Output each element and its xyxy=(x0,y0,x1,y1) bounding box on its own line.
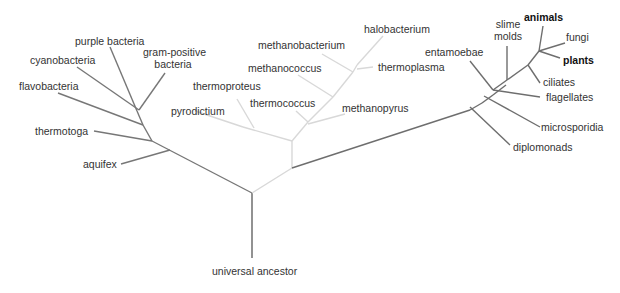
label-methanococcus: methanococcus xyxy=(248,62,322,74)
label-diplomonads: diplomonads xyxy=(513,141,573,153)
label-ciliates: ciliates xyxy=(543,76,575,88)
label-flagellates: flagellates xyxy=(546,91,593,103)
label-thermoproteus: thermoproteus xyxy=(193,80,261,92)
label-universal-ancestor: universal ancestor xyxy=(212,265,297,277)
label-methanopyrus: methanopyrus xyxy=(342,102,409,114)
label-gram-positive-bacteria: gram-positive bacteria xyxy=(143,46,203,70)
label-thermoplasma: thermoplasma xyxy=(378,61,445,73)
label-cyanobacteria: cyanobacteria xyxy=(30,54,95,66)
label-purple-bacteria: purple bacteria xyxy=(75,35,144,47)
label-fungi: fungi xyxy=(566,31,589,43)
label-methanobacterium: methanobacterium xyxy=(258,39,345,51)
label-slime-molds-line1: slime xyxy=(488,18,528,30)
label-animals: animals xyxy=(524,11,563,23)
label-halobacterium: halobacterium xyxy=(364,23,430,35)
label-thermotoga: thermotoga xyxy=(35,125,88,137)
label-plants: plants xyxy=(563,54,594,66)
label-microsporidia: microsporidia xyxy=(541,121,603,133)
label-aquifex: aquifex xyxy=(83,158,117,170)
label-entamoebae: entamoebae xyxy=(425,46,483,58)
label-slime-molds-line2: molds xyxy=(488,30,528,42)
label-flavobacteria: flavobacteria xyxy=(19,80,79,92)
label-thermococcus: thermococcus xyxy=(250,97,315,109)
label-gram-positive-line1: gram-positive xyxy=(143,46,203,58)
label-pyrodictium: pyrodictium xyxy=(171,105,225,117)
label-slime-molds: slime molds xyxy=(488,18,528,42)
label-gram-positive-line2: bacteria xyxy=(143,58,203,70)
